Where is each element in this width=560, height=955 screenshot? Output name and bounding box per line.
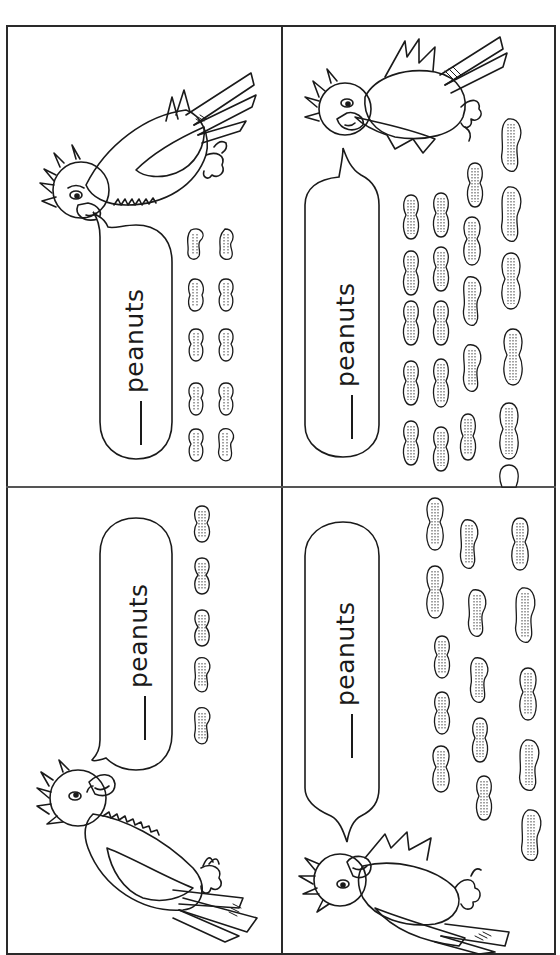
peanut-icon [191, 608, 213, 648]
peanut-icon [430, 425, 452, 473]
peanut-icon [215, 327, 237, 363]
peanut-icon [516, 666, 540, 722]
panel-top-right: peanuts [283, 27, 556, 486]
peanut-icon [429, 744, 453, 794]
peanut-icon [465, 588, 489, 638]
peanut-icon [460, 343, 484, 393]
peanut-icon [508, 516, 532, 572]
peanut-icon [469, 716, 491, 764]
panel-bottom-left: peanuts [8, 488, 281, 948]
peanut-icon [430, 357, 452, 409]
peanut-icon [457, 412, 479, 462]
peanut-icon [467, 656, 491, 704]
peanut-icon [215, 381, 237, 417]
answer-blank[interactable] [144, 696, 146, 740]
peanut-icon [400, 249, 422, 297]
panel-bottom-right: peanuts [283, 488, 556, 948]
peanut-icon [518, 808, 544, 862]
parrot-icon [295, 27, 515, 162]
peanut-icon [464, 161, 486, 209]
peanut-icon [431, 634, 453, 680]
bubble-word: peanuts [120, 288, 149, 393]
peanut-icon [191, 556, 213, 596]
peanut-icon [430, 245, 452, 293]
bubble-word: peanuts [331, 601, 360, 706]
answer-blank[interactable] [351, 395, 353, 439]
peanut-icon [400, 419, 422, 467]
bubble-label: peanuts [331, 282, 360, 439]
answer-blank[interactable] [351, 714, 353, 758]
panel-top-left: peanuts [8, 27, 281, 486]
bubble-label: peanuts [124, 583, 153, 740]
peanut-icon [400, 299, 422, 347]
peanut-icon [473, 774, 495, 822]
bubble-label: peanuts [331, 601, 360, 758]
peanut-icon [400, 359, 422, 407]
peanut-icon [498, 185, 524, 243]
peanut-icon [215, 227, 237, 261]
peanut-icon [457, 518, 481, 570]
peanut-icon [460, 215, 484, 267]
peanut-icon [423, 496, 447, 552]
peanut-icon [191, 706, 213, 746]
peanut-icon [423, 564, 447, 620]
peanut-icon [191, 656, 213, 694]
peanut-icon [185, 327, 207, 363]
peanut-icon [460, 275, 484, 327]
peanut-icon [400, 193, 422, 241]
peanut-icon [516, 738, 542, 792]
peanut-icon [185, 227, 207, 261]
peanut-icon [185, 381, 207, 417]
peanut-icon [500, 327, 526, 387]
parrot-icon [295, 828, 515, 953]
answer-blank[interactable] [140, 401, 142, 445]
peanut-icon [185, 427, 207, 463]
peanut-icon [512, 586, 538, 644]
peanut-icon [191, 504, 213, 544]
bubble-label: peanuts [120, 288, 149, 445]
peanut-icon [496, 401, 522, 461]
peanut-icon [431, 690, 453, 736]
peanut-icon [430, 191, 452, 239]
peanut-icon [430, 299, 452, 347]
bubble-word: peanuts [331, 282, 360, 387]
peanut-icon [498, 251, 524, 311]
peanut-icon [215, 277, 237, 313]
peanut-icon [185, 277, 207, 313]
peanut-icon [498, 117, 524, 173]
bubble-word: peanuts [124, 583, 153, 688]
parrot-icon [33, 758, 273, 943]
peanut-icon [215, 427, 237, 463]
